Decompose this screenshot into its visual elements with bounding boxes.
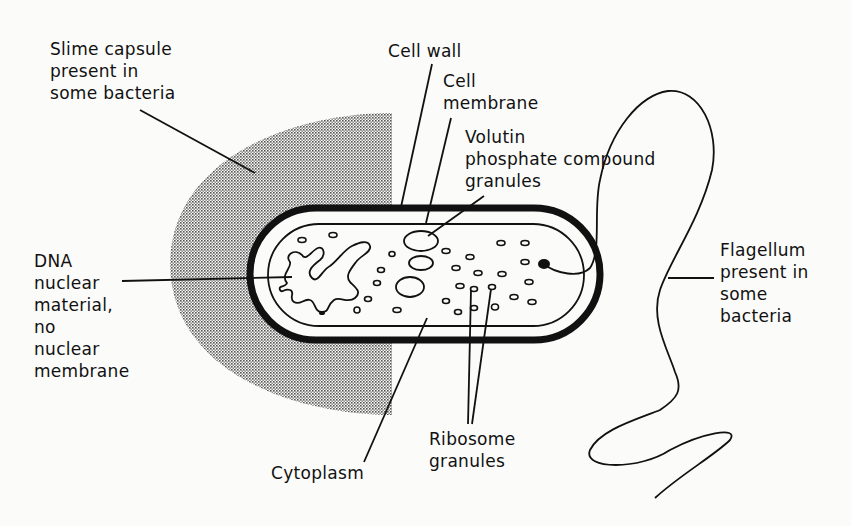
label-cell-wall: Cell wall xyxy=(388,40,462,62)
label-slime-capsule: Slime capsule present in some bacteria xyxy=(50,38,175,104)
label-volutin: Volutin phosphate compound granules xyxy=(465,126,656,192)
leader-cell-wall xyxy=(401,64,432,207)
label-cell-membrane: Cell membrane xyxy=(443,70,538,114)
label-flagellum: Flagellum present in some bacteria xyxy=(720,239,809,327)
label-ribosome: Ribosome granules xyxy=(429,428,515,472)
dna-dot xyxy=(319,311,325,315)
label-dna: DNA nuclear material, no nuclear membran… xyxy=(34,250,129,382)
leader-slime-capsule xyxy=(140,110,255,173)
label-cytoplasm: Cytoplasm xyxy=(271,462,364,484)
cell-wall xyxy=(250,208,600,340)
